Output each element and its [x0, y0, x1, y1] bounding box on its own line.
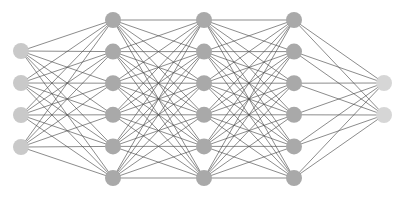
output-node-1 — [376, 75, 392, 91]
hidden-2-node-1 — [196, 12, 212, 28]
hidden-2-node-5 — [196, 138, 212, 154]
hidden-1-node-5 — [105, 138, 121, 154]
layer-hidden-3 — [286, 12, 302, 186]
hidden-1-node-3 — [105, 75, 121, 91]
edge-hidden-3-5-to-output-1 — [294, 115, 384, 178]
neural-network-diagram — [0, 0, 404, 209]
hidden-1-node-1 — [105, 12, 121, 28]
hidden-2-node-2 — [196, 44, 212, 60]
layer-hidden-1 — [105, 12, 121, 186]
edge-hidden-3-0-to-output-0 — [294, 20, 384, 83]
edge-hidden-3-5-to-output-0 — [294, 83, 384, 178]
hidden-2-node-6 — [196, 170, 212, 186]
hidden-2-node-4 — [196, 107, 212, 123]
edge-input-2-to-hidden-1-0 — [21, 20, 113, 115]
edge-input-3-to-hidden-1-4 — [21, 146, 113, 147]
layer-hidden-2 — [196, 12, 212, 186]
layer-input — [13, 43, 29, 155]
edge-hidden-3-1-to-output-0 — [294, 52, 384, 83]
input-node-2 — [13, 75, 29, 91]
hidden-3-node-4 — [286, 107, 302, 123]
hidden-3-node-1 — [286, 12, 302, 28]
hidden-3-node-5 — [286, 138, 302, 154]
network-nodes — [13, 12, 392, 186]
hidden-3-node-2 — [286, 44, 302, 60]
hidden-1-node-2 — [105, 44, 121, 60]
input-node-1 — [13, 43, 29, 59]
hidden-3-node-6 — [286, 170, 302, 186]
input-node-4 — [13, 139, 29, 155]
hidden-2-node-3 — [196, 75, 212, 91]
hidden-3-node-3 — [286, 75, 302, 91]
input-node-3 — [13, 107, 29, 123]
hidden-1-node-4 — [105, 107, 121, 123]
layer-output — [376, 75, 392, 123]
edge-input-3-to-hidden-1-5 — [21, 147, 113, 178]
output-node-2 — [376, 107, 392, 123]
hidden-1-node-6 — [105, 170, 121, 186]
connection-edges — [21, 20, 384, 178]
edge-input-3-to-hidden-1-1 — [21, 52, 113, 147]
edge-input-0-to-hidden-1-0 — [21, 20, 113, 51]
